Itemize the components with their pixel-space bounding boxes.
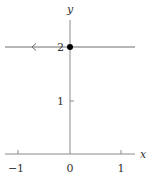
y-tick-label-2: 2 xyxy=(57,41,64,54)
y-axis-label: y xyxy=(66,3,74,16)
chart: y x 2 1 −1 0 1 xyxy=(0,0,152,180)
y-tick-label-1: 1 xyxy=(57,95,64,108)
x-tick-label-0: 0 xyxy=(67,162,74,175)
x-axis-label: x xyxy=(140,148,147,161)
x-tick-label-neg1: −1 xyxy=(8,162,24,175)
x-tick-label-1: 1 xyxy=(118,162,125,175)
point-filled xyxy=(67,44,73,50)
